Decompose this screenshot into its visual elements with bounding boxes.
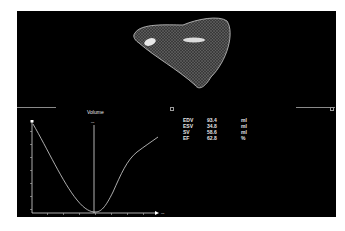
3d-viewport[interactable]: Volume fps ms bbox=[17, 11, 336, 217]
stat-value: 62.8 bbox=[207, 135, 241, 141]
volume-plot: fps ms bbox=[17, 108, 177, 217]
x-unit-label: ms bbox=[161, 212, 165, 215]
stat-label: EF bbox=[183, 135, 207, 141]
heart-mesh-icon[interactable] bbox=[127, 13, 237, 93]
marker-label: fps bbox=[91, 121, 95, 124]
volume-stats-panel: EDV 93.4 ml ESV 34.8 ml SV 58.6 ml EF 62… bbox=[183, 117, 247, 141]
volume-chart: Volume fps ms bbox=[17, 108, 177, 217]
stat-row-ef: EF 62.8 % bbox=[183, 135, 247, 141]
stat-unit: % bbox=[241, 135, 245, 141]
panel-toggle-icon[interactable] bbox=[330, 107, 334, 111]
